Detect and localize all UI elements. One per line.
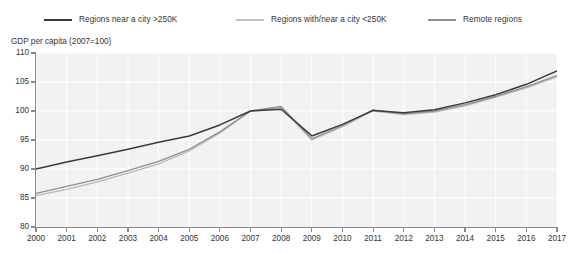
legend-label: Regions near a city >250K	[79, 15, 177, 25]
y-axis-label: GDP per capita (2007=100)	[11, 37, 111, 46]
x-tick-label: 2003	[111, 234, 145, 244]
x-tick-mark	[158, 228, 159, 232]
x-tick-mark	[189, 228, 190, 232]
y-tick-label: 85	[3, 194, 29, 202]
chart-legend: Regions near a city >250K Regions with/n…	[0, 11, 578, 29]
legend-swatch-icon	[236, 19, 264, 21]
x-tick-mark	[373, 228, 374, 232]
y-tick-mark	[31, 52, 36, 53]
x-tick-label: 2010	[325, 234, 359, 244]
x-tick-mark	[219, 228, 220, 232]
series-line	[36, 71, 557, 169]
x-tick-mark	[556, 228, 557, 232]
plot-svg	[36, 53, 557, 227]
legend-label: Regions with/near a city <250K	[271, 15, 387, 25]
x-tick-label: 2014	[448, 234, 482, 244]
plot-area	[36, 53, 557, 227]
x-tick-label: 2009	[295, 234, 329, 244]
legend-swatch-icon	[428, 19, 456, 21]
series-lines	[36, 71, 557, 196]
y-tick-label: 95	[3, 136, 29, 144]
x-tick-label: 2006	[203, 234, 237, 244]
x-tick-mark	[281, 228, 282, 232]
y-tick-mark	[31, 81, 36, 82]
x-tick-label: 2002	[80, 234, 114, 244]
x-tick-label: 2015	[479, 234, 513, 244]
x-tick-label: 2007	[234, 234, 268, 244]
x-tick-label: 2011	[356, 234, 390, 244]
x-tick-mark	[526, 228, 527, 232]
legend-item-regions-with-near-a-city-lt250k[interactable]: Regions with/near a city <250K	[236, 11, 387, 29]
y-tick-mark	[31, 139, 36, 140]
x-tick-mark	[342, 228, 343, 232]
y-tick-label: 105	[3, 78, 29, 86]
x-tick-mark	[311, 228, 312, 232]
x-tick-label: 2001	[50, 234, 84, 244]
x-tick-label: 2008	[264, 234, 298, 244]
y-tick-label: 90	[3, 165, 29, 173]
x-tick-mark	[464, 228, 465, 232]
x-tick-mark	[97, 228, 98, 232]
x-tick-label: 2017	[540, 234, 574, 244]
y-tick-label: 100	[3, 107, 29, 115]
x-tick-label: 2005	[172, 234, 206, 244]
x-tick-mark	[403, 228, 404, 232]
chart-figure: Regions near a city >250K Regions with/n…	[0, 0, 578, 253]
series-line	[36, 77, 557, 196]
legend-item-remote-regions[interactable]: Remote regions	[428, 11, 522, 29]
y-tick-label: 80	[3, 223, 29, 231]
y-tick-label: 110	[3, 49, 29, 57]
x-axis-spine	[35, 227, 558, 228]
x-tick-label: 2013	[417, 234, 451, 244]
x-tick-mark	[66, 228, 67, 232]
y-tick-mark	[31, 110, 36, 111]
legend-swatch-icon	[44, 19, 72, 21]
x-tick-mark	[250, 228, 251, 232]
x-tick-mark	[35, 228, 36, 232]
gridlines	[36, 53, 557, 227]
legend-item-regions-near-a-city-gt250k[interactable]: Regions near a city >250K	[44, 11, 177, 29]
legend-label: Remote regions	[463, 15, 522, 25]
x-tick-label: 2004	[142, 234, 176, 244]
series-line	[36, 76, 557, 194]
y-tick-mark	[31, 168, 36, 169]
x-tick-mark	[127, 228, 128, 232]
x-tick-mark	[495, 228, 496, 232]
y-tick-mark	[31, 197, 36, 198]
x-tick-label: 2016	[509, 234, 543, 244]
x-tick-mark	[434, 228, 435, 232]
x-tick-label: 2012	[387, 234, 421, 244]
x-tick-label: 2000	[19, 234, 53, 244]
